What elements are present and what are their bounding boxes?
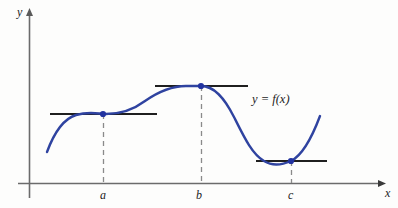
point-marker-a [100,111,106,117]
y-axis-arrow-icon [26,8,33,16]
point-marker-c [288,158,294,164]
curve-equation-label: y = f(x) [252,92,290,107]
y-axis-label: y [17,5,22,20]
point-marker-b [198,83,204,89]
figure-canvas [0,0,398,208]
x-tick-label-b: b [196,188,202,203]
x-axis-label: x [385,186,390,201]
x-tick-label-a: a [100,188,106,203]
x-axis [18,180,386,187]
calculus-figure: y x a b c y = f(x) [0,0,398,208]
y-axis [26,8,33,198]
x-tick-label-c: c [288,188,293,203]
